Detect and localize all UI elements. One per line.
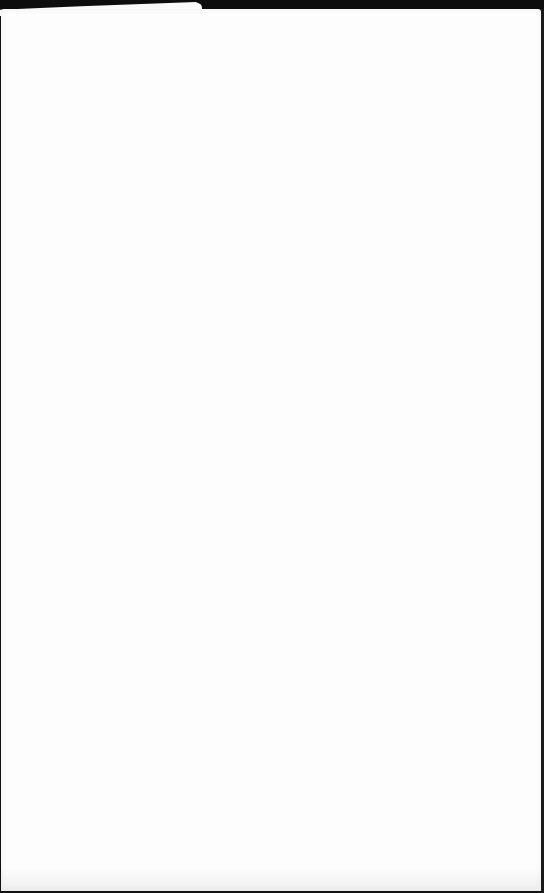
blank-page bbox=[1, 9, 541, 891]
bottom-shadow bbox=[1, 869, 541, 891]
